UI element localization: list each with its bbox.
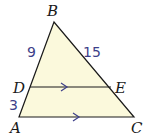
vertex-label-a: A [8,119,21,137]
triangle-diagram: B D E A C 9 15 3 [0,0,144,137]
length-label-bd: 9 [27,44,36,60]
length-label-be: 15 [83,44,101,60]
vertex-label-d: D [12,79,25,97]
vertex-label-b: B [46,2,58,20]
triangle-abc [19,22,134,117]
vertex-label-e: E [114,79,126,97]
vertex-label-c: C [131,119,143,137]
length-label-da: 3 [9,97,18,113]
